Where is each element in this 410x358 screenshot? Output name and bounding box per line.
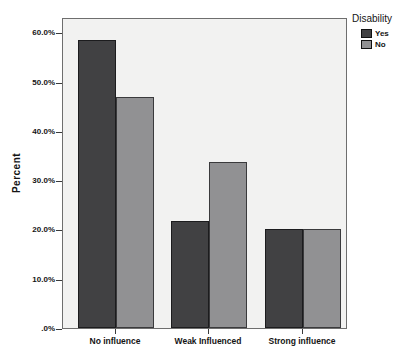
legend-title: Disability	[352, 13, 392, 24]
x-tick-mark	[208, 329, 209, 334]
y-tick-label: 30.0%	[0, 176, 55, 186]
y-tick-mark	[56, 33, 62, 34]
bar-yes-3	[265, 229, 303, 328]
y-tick-mark	[56, 329, 62, 330]
y-tick-mark	[56, 230, 62, 231]
y-tick-mark	[56, 280, 62, 281]
legend-swatch-no-icon	[361, 40, 372, 49]
chart-canvas: Percent Disability YesNo 60.0%50.0%40.0%…	[0, 0, 410, 358]
y-tick-mark	[56, 132, 62, 133]
y-tick-label: .0%	[0, 324, 55, 334]
y-tick-label: 40.0%	[0, 127, 55, 137]
legend-items: YesNo	[352, 29, 392, 49]
x-category-label: Weak Influenced	[175, 336, 242, 346]
x-category-label: Strong influence	[268, 336, 335, 346]
bar-no-2	[209, 162, 247, 328]
y-tick-mark	[56, 83, 62, 84]
legend-item-yes: Yes	[361, 29, 392, 38]
y-tick-mark	[56, 181, 62, 182]
y-tick-label: 20.0%	[0, 225, 55, 235]
bar-no-1	[116, 97, 154, 328]
y-tick-label: 10.0%	[0, 275, 55, 285]
x-tick-mark	[302, 329, 303, 334]
bar-yes-2	[171, 221, 209, 328]
y-tick-label: 50.0%	[0, 78, 55, 88]
x-tick-mark	[115, 329, 116, 334]
legend-swatch-yes-icon	[361, 29, 372, 38]
x-category-label: No influence	[89, 336, 140, 346]
legend-item-label: Yes	[375, 29, 389, 38]
legend-item-no: No	[361, 40, 392, 49]
bar-no-3	[303, 229, 341, 328]
legend-item-label: No	[375, 40, 386, 49]
y-tick-label: 60.0%	[0, 28, 55, 38]
bar-yes-1	[78, 40, 116, 328]
plot-area	[62, 18, 347, 329]
y-axis-title: Percent	[11, 153, 22, 193]
legend: Disability YesNo	[352, 13, 392, 51]
